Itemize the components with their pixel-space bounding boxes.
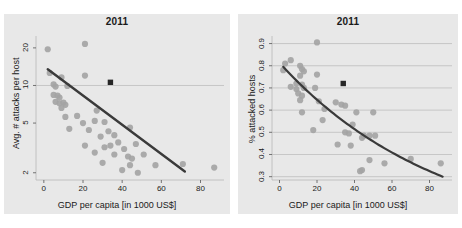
x-tick-label: 40 [110, 184, 134, 193]
data-point [288, 84, 294, 90]
x-axis-label-left: GDP per capita [in 1000 US$] [4, 200, 230, 210]
x-tick-label: 80 [418, 184, 442, 193]
trend-line [283, 67, 442, 177]
data-point [348, 143, 354, 149]
data-point [381, 160, 387, 166]
data-point [314, 39, 320, 45]
data-point [129, 155, 135, 161]
x-tick-label: 60 [149, 184, 173, 193]
data-point [92, 150, 98, 156]
y-axis-label-right: % attacked hosts [247, 69, 257, 149]
data-point [353, 109, 359, 115]
y-tick-label: 2 [21, 162, 30, 182]
data-point [366, 157, 372, 163]
data-point [342, 103, 348, 109]
x-tick-label: 0 [268, 184, 292, 193]
data-point [82, 143, 88, 149]
data-point [52, 83, 58, 89]
data-point [107, 143, 113, 149]
data-point [135, 170, 141, 176]
data-point [127, 162, 133, 168]
data-point [211, 164, 217, 170]
data-point [370, 109, 376, 115]
data-point [133, 141, 139, 147]
data-point [119, 167, 125, 173]
data-point [98, 133, 104, 139]
data-point [288, 57, 294, 63]
data-point [82, 72, 88, 78]
y-tick-label: 10 [21, 75, 30, 95]
data-point [101, 119, 107, 125]
data-point [312, 85, 318, 91]
data-point [141, 151, 147, 157]
data-point [346, 130, 352, 136]
data-point [314, 72, 320, 78]
data-point [310, 127, 316, 133]
y-tick-label: 0.5 [257, 122, 266, 142]
data-point [121, 146, 127, 152]
data-point [152, 162, 158, 168]
data-point [92, 118, 98, 124]
y-tick-label: 0.8 [257, 55, 266, 75]
data-point [111, 151, 117, 157]
y-tick-label: 0.7 [257, 77, 266, 97]
data-point [86, 127, 92, 133]
data-point [101, 144, 107, 150]
data-point [115, 139, 121, 145]
x-tick-label: 80 [189, 184, 213, 193]
data-point [58, 105, 64, 111]
data-point [297, 73, 303, 79]
x-tick-label: 0 [32, 184, 56, 193]
figure-root: 2011 Avg. # attacks per host GDP per cap… [0, 0, 462, 228]
data-point [111, 132, 117, 138]
data-point [99, 160, 105, 166]
data-point [66, 126, 72, 132]
x-axis-label-right: GDP per capita [in 1000 US$] [238, 200, 458, 210]
y-tick-label: 0.4 [257, 144, 266, 164]
data-point [297, 97, 303, 103]
data-point [438, 160, 444, 166]
highlight-marker [341, 81, 346, 86]
y-tick-label: 5 [21, 113, 30, 133]
data-point [180, 161, 186, 167]
highlight-marker [108, 80, 113, 85]
data-point [333, 99, 339, 105]
data-point [335, 141, 341, 147]
data-point [357, 168, 363, 174]
data-point [80, 120, 86, 126]
data-point [74, 113, 80, 119]
x-tick-label: 60 [380, 184, 404, 193]
data-point [45, 46, 51, 52]
x-tick-label: 20 [305, 184, 329, 193]
chart-panel-right: 2011 % attacked hosts GDP per capita [in… [238, 14, 458, 214]
data-point [320, 117, 326, 123]
chart-panel-left: 2011 Avg. # attacks per host GDP per cap… [4, 14, 230, 214]
y-tick-label: 0.6 [257, 100, 266, 120]
x-tick-label: 40 [343, 184, 367, 193]
data-point [299, 109, 305, 115]
data-point [62, 114, 68, 120]
data-point [282, 60, 288, 66]
y-axis-label-left: Avg. # attacks per host [11, 69, 21, 149]
y-tick-label: 0.9 [257, 33, 266, 53]
y-tick-label: 0.3 [257, 166, 266, 186]
x-tick-label: 20 [71, 184, 95, 193]
data-point [105, 128, 111, 134]
data-point [82, 41, 88, 47]
data-point [372, 133, 378, 139]
y-tick-label: 20 [21, 37, 30, 57]
